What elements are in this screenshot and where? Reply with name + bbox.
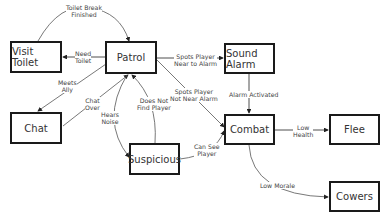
- label-can-see-player: Can See Player: [194, 143, 220, 157]
- state-patrol: Patrol: [105, 41, 157, 74]
- label-spots-player-near-alarm: Spots Player Near to Alarm: [174, 53, 217, 67]
- label-hears-noise: Hears Noise: [101, 111, 119, 125]
- state-cowers: Cowers: [329, 181, 380, 212]
- label-toilet-break-finished: Toilet Break Finished: [66, 4, 102, 18]
- state-suspicious: Suspicious: [129, 143, 180, 175]
- label-low-morale: Low Morale: [260, 182, 295, 189]
- state-chat: Chat: [10, 112, 62, 144]
- label-does-not-find-player: Does Not Find Player: [137, 97, 171, 111]
- state-sound-alarm: Sound Alarm: [224, 43, 275, 74]
- state-combat: Combat: [224, 114, 275, 145]
- state-visit-toilet: Visit Toilet: [10, 41, 62, 73]
- label-need-toilet: Need Toilet: [75, 50, 91, 64]
- label-chat-over: Chat Over: [85, 97, 100, 111]
- label-spots-player-not-near-alarm: Spots Player Not Near Alarm: [170, 88, 218, 102]
- label-low-health: Low Health: [293, 124, 313, 138]
- arrow-combat-to-cowers: [249, 145, 328, 197]
- label-meets-ally: Meets Ally: [58, 79, 77, 93]
- label-alarm-activated: Alarm Activated: [229, 91, 278, 98]
- state-flee: Flee: [329, 114, 380, 145]
